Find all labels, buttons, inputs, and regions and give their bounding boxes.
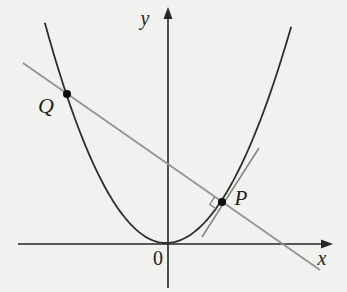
x-axis-label: x xyxy=(317,247,327,269)
point-p-label: P xyxy=(234,186,248,210)
figure: y x 0 Q P xyxy=(0,0,347,292)
point-q-dot xyxy=(63,90,71,98)
y-axis-arrow-icon xyxy=(164,7,173,19)
point-q-label: Q xyxy=(38,93,54,118)
diagram-svg: y x 0 Q P xyxy=(0,0,347,292)
y-axis-label: y xyxy=(139,7,150,30)
origin-label: 0 xyxy=(153,247,163,269)
point-p-dot xyxy=(218,198,226,206)
tangent-line-at-p xyxy=(202,148,259,237)
